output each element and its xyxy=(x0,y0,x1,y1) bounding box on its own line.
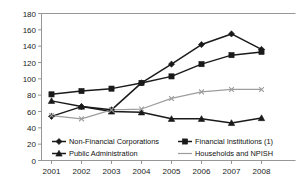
x-axis-tick-label: 2004 xyxy=(133,167,151,176)
data-point-marker xyxy=(109,86,114,91)
x-axis-tick-label: 2006 xyxy=(193,167,211,176)
data-point-marker xyxy=(49,92,54,97)
chart-container: 020406080100120140160180 200120022003200… xyxy=(0,0,301,186)
x-axis-tick-label: 2007 xyxy=(223,167,241,176)
legend-item: Non-Financial Corporations xyxy=(52,137,159,146)
y-axis-tick-label: 60 xyxy=(27,108,36,117)
data-point-marker xyxy=(169,74,174,79)
x-axis-tick-label: 2001 xyxy=(43,167,61,176)
x-axis-tick-label: 2003 xyxy=(103,167,121,176)
y-axis-tick-label: 140 xyxy=(23,42,37,51)
y-axis-tick-label: 0 xyxy=(32,157,37,166)
x-axis-tick-label: 2008 xyxy=(253,167,271,176)
legend-item-label: Financial Institutions (1) xyxy=(195,137,273,146)
data-point-marker xyxy=(79,88,84,93)
y-axis-tick-label: 180 xyxy=(23,10,37,19)
y-axis-tick-label: 40 xyxy=(27,124,36,133)
data-point-marker xyxy=(199,62,204,67)
x-axis-tick-label: 2005 xyxy=(163,167,181,176)
data-point-marker xyxy=(229,53,234,58)
y-axis-tick-label: 120 xyxy=(23,59,37,68)
y-axis-tick-label: 160 xyxy=(23,26,37,35)
x-axis-tick-label: 2002 xyxy=(73,167,91,176)
y-axis-tick-label: 20 xyxy=(27,140,36,149)
legend-item-label: Non-Financial Corporations xyxy=(69,137,159,146)
line-chart: 020406080100120140160180 200120022003200… xyxy=(0,0,301,186)
data-point-marker xyxy=(182,139,187,144)
y-axis-tick-label: 80 xyxy=(27,91,36,100)
legend-item-label: Households and NPISH xyxy=(195,149,273,158)
legend-item-label: Public Administration xyxy=(69,149,138,158)
data-point-marker xyxy=(259,49,264,54)
data-point-marker xyxy=(139,80,144,85)
y-axis-tick-label: 100 xyxy=(23,75,37,84)
